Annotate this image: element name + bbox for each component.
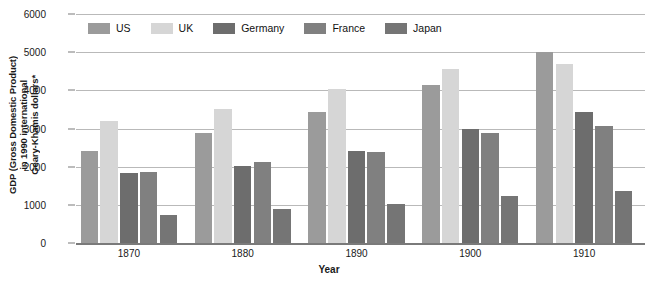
bar-japan-1870 — [160, 215, 178, 243]
bar-uk-1880 — [214, 109, 232, 243]
y-tick-label-1000: 1000 — [0, 199, 46, 210]
legend-item-germany[interactable]: Germany — [213, 22, 284, 34]
gridline-6000 — [76, 14, 645, 15]
legend-label-france: France — [332, 22, 365, 34]
x-tick-label-1870: 1870 — [118, 248, 140, 259]
legend-item-us[interactable]: US — [88, 22, 131, 34]
legend-swatch-france — [304, 23, 326, 34]
x-axis-line — [76, 243, 645, 245]
bar-uk-1890 — [328, 89, 346, 243]
x-tick-label-1880: 1880 — [232, 248, 254, 259]
bar-uk-1870 — [100, 121, 118, 243]
legend-label-japan: Japan — [413, 22, 442, 34]
x-axis-title: Year — [0, 264, 658, 275]
gridline-5000 — [76, 52, 645, 53]
bar-japan-1910 — [615, 191, 633, 243]
legend-swatch-germany — [213, 23, 235, 34]
y-tick-mark-0 — [68, 243, 75, 244]
bar-germany-1910 — [575, 112, 593, 243]
bar-us-1900 — [422, 85, 440, 243]
legend-label-us: US — [116, 22, 131, 34]
y-tick-label-2000: 2000 — [0, 161, 46, 172]
y-tick-mark-5000 — [68, 52, 75, 53]
y-tick-label-5000: 5000 — [0, 47, 46, 58]
legend-item-france[interactable]: France — [304, 22, 365, 34]
bar-us-1870 — [81, 151, 99, 243]
bar-us-1890 — [308, 112, 326, 243]
y-tick-mark-4000 — [68, 90, 75, 91]
bar-france-1880 — [254, 162, 272, 243]
bar-japan-1890 — [387, 204, 405, 243]
gdp-grouped-bar-chart: GDP (Gross Domestic Product) in 1990 int… — [0, 0, 658, 285]
bar-germany-1880 — [234, 166, 252, 243]
legend-label-germany: Germany — [241, 22, 284, 34]
y-tick-mark-2000 — [68, 166, 75, 167]
legend-swatch-uk — [151, 23, 173, 34]
legend-item-uk[interactable]: UK — [151, 22, 194, 34]
y-tick-label-6000: 6000 — [0, 9, 46, 20]
bar-germany-1890 — [348, 151, 366, 243]
bar-japan-1880 — [273, 209, 291, 243]
chart-legend: USUKGermanyFranceJapan — [88, 22, 462, 34]
y-tick-mark-3000 — [68, 128, 75, 129]
bar-us-1910 — [536, 52, 554, 243]
legend-item-japan[interactable]: Japan — [385, 22, 442, 34]
y-tick-label-4000: 4000 — [0, 85, 46, 96]
y-tick-label-3000: 3000 — [0, 123, 46, 134]
bar-japan-1900 — [501, 196, 519, 243]
bar-france-1910 — [595, 126, 613, 243]
x-tick-label-1890: 1890 — [345, 248, 367, 259]
bar-uk-1910 — [556, 64, 574, 243]
y-tick-mark-1000 — [68, 204, 75, 205]
legend-label-uk: UK — [179, 22, 194, 34]
legend-swatch-japan — [385, 23, 407, 34]
bar-france-1870 — [140, 172, 158, 243]
y-tick-mark-6000 — [68, 14, 75, 15]
y-tick-label-0: 0 — [0, 238, 46, 249]
bar-us-1880 — [195, 133, 213, 243]
bar-germany-1870 — [120, 173, 138, 243]
bar-germany-1900 — [462, 129, 480, 243]
x-tick-label-1900: 1900 — [459, 248, 481, 259]
x-tick-label-1910: 1910 — [573, 248, 595, 259]
legend-swatch-us — [88, 23, 110, 34]
bar-france-1900 — [481, 133, 499, 243]
plot-area — [76, 14, 645, 243]
bar-uk-1900 — [442, 69, 460, 243]
bar-france-1890 — [367, 152, 385, 243]
